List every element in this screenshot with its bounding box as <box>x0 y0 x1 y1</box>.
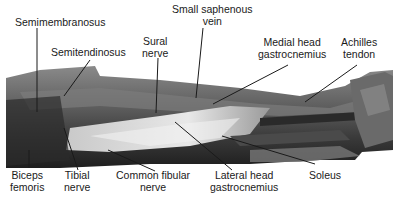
line-achilles <box>305 65 357 102</box>
line-common-fibular <box>108 150 155 171</box>
label-tibial-nerve: Tibialnerve <box>64 169 90 193</box>
label-small-saphenous-vein: Small saphenousvein <box>172 3 253 27</box>
label-medial-head-gastrocnemius: Medial headgastrocnemius <box>258 36 326 60</box>
label-semimembranosus: Semimembranosus <box>15 16 105 28</box>
line-soleus <box>222 136 315 164</box>
line-tibial <box>64 128 78 170</box>
anatomy-figure: Semimembranosus Semitendinosus Suralnerv… <box>0 0 393 202</box>
label-sural-nerve: Suralnerve <box>142 35 168 59</box>
line-lateral-head <box>175 122 232 170</box>
line-semitendinosus <box>64 60 90 96</box>
label-lateral-head-gastrocnemius: Lateral headgastrocnemius <box>210 169 278 193</box>
line-small-saphenous <box>196 28 203 98</box>
label-soleus: Soleus <box>309 169 341 181</box>
line-medial-head <box>213 65 288 104</box>
line-sural-nerve <box>156 58 158 113</box>
label-biceps-femoris: Bicepsfemoris <box>10 169 44 193</box>
label-common-fibular-nerve: Common fibularnerve <box>116 169 190 193</box>
label-achilles-tendon: Achillestendon <box>341 36 377 60</box>
label-semitendinosus: Semitendinosus <box>51 46 126 58</box>
